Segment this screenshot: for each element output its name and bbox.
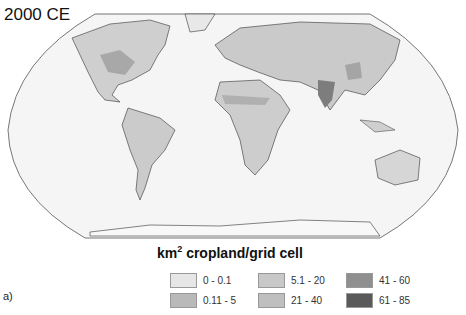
legend-item: 5.1 - 20 (258, 273, 346, 288)
legend: 0 - 0.1 5.1 - 20 41 - 60 0.11 - 5 21 - 4… (170, 273, 434, 308)
legend-swatch (170, 273, 197, 288)
legend-title: km2 cropland/grid cell (157, 244, 303, 261)
legend-item: 0.11 - 5 (170, 293, 258, 308)
legend-swatch (258, 273, 285, 288)
world-cropland-map (0, 0, 466, 315)
legend-item: 61 - 85 (346, 293, 434, 308)
panel-label: a) (3, 290, 13, 302)
legend-item: 21 - 40 (258, 293, 346, 308)
legend-swatch (170, 293, 197, 308)
legend-item: 41 - 60 (346, 273, 434, 288)
legend-swatch (346, 293, 373, 308)
legend-swatch (346, 273, 373, 288)
legend-swatch (258, 293, 285, 308)
legend-item: 0 - 0.1 (170, 273, 258, 288)
